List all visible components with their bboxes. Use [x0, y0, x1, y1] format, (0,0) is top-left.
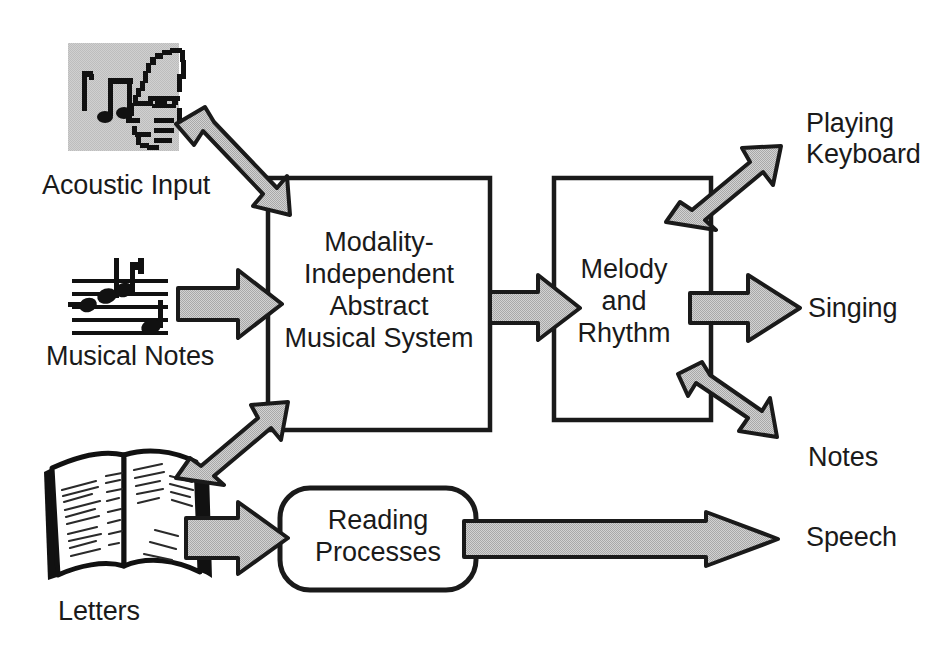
label-musical-notes: Musical Notes: [46, 343, 214, 370]
melody-line-2: and: [554, 286, 694, 318]
label-notes-output: Notes: [808, 444, 878, 471]
label-singing: Singing: [808, 295, 897, 322]
label-speech: Speech: [806, 524, 897, 551]
label-acoustic-input: Acoustic Input: [42, 172, 210, 199]
box-label-abstract-musical-system: Modality- Independent Abstract Musical S…: [268, 227, 490, 354]
label-letters: Letters: [58, 598, 140, 625]
arrow-reading-to-speech: [464, 512, 778, 566]
arrow-melody-to-keyboard: [666, 146, 781, 230]
face-profile-with-music-notes-icon: [68, 43, 186, 151]
box-label-reading-processes: Reading Processes: [280, 505, 476, 569]
musical-staff-icon: [68, 258, 168, 337]
arrow-melody-to-singing: [690, 275, 800, 341]
label-playing-keyboard-line1: Playing: [806, 110, 894, 137]
system-line-1: Modality-: [268, 227, 490, 259]
system-line-3: Abstract: [268, 291, 490, 323]
label-playing-keyboard-line2: Keyboard: [806, 141, 921, 168]
arrow-melody-to-notes: [678, 362, 777, 437]
system-line-4: Musical System: [268, 323, 490, 355]
system-line-2: Independent: [268, 259, 490, 291]
melody-line-3: Rhythm: [554, 318, 694, 350]
melody-line-1: Melody: [554, 254, 694, 286]
box-label-melody-and-rhythm: Melody and Rhythm: [554, 254, 694, 350]
reading-line-2: Processes: [280, 537, 476, 569]
reading-line-1: Reading: [280, 505, 476, 537]
diagram-canvas: Acoustic Input Musical Notes Letters Mod…: [0, 0, 938, 648]
arrow-letters-to-system: [176, 402, 288, 485]
